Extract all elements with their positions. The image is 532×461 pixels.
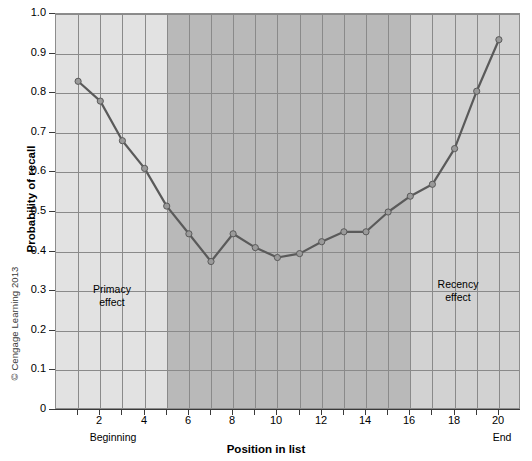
y-axis-tick-label: 0.2 (2, 323, 46, 335)
x-axis-tick (254, 409, 255, 415)
y-axis-tick-label: 0.7 (2, 125, 46, 137)
data-point (230, 231, 236, 237)
y-axis-tick (49, 171, 55, 172)
y-axis-tick (49, 251, 55, 252)
y-axis-tick-label: 0 (2, 402, 46, 414)
data-point (429, 181, 435, 187)
y-axis-tick-label: 0.6 (2, 164, 46, 176)
annotation-primacy-line1: Primacy (77, 283, 147, 296)
y-axis-tick-label: 0.5 (2, 204, 46, 216)
y-axis-tick-label: 0.8 (2, 85, 46, 97)
x-axis-tick (166, 409, 167, 415)
y-axis-tick (49, 330, 55, 331)
x-axis-tick-label: 18 (439, 414, 469, 426)
y-axis-tick-label: 0.1 (2, 362, 46, 374)
x-axis-tick (431, 409, 432, 415)
y-axis-tick (49, 369, 55, 370)
data-point (319, 239, 325, 245)
x-axis-tick-label: 20 (483, 414, 513, 426)
x-axis-line (55, 409, 520, 410)
x-axis-tick-label: 16 (394, 414, 424, 426)
serial-position-curve-figure: © Cengage Learning 2013 Probability of r… (0, 0, 532, 461)
data-point (474, 88, 480, 94)
x-axis-tick-label: 8 (217, 414, 247, 426)
data-point (142, 165, 148, 171)
annotation-primacy-effect: Primacy effect (77, 283, 147, 308)
x-axis-tick (387, 409, 388, 415)
x-axis-tick-label: 14 (350, 414, 380, 426)
y-axis-tick-label: 0.4 (2, 244, 46, 256)
x-axis-tick-label: 6 (173, 414, 203, 426)
annotation-primacy-line2: effect (77, 296, 147, 309)
y-axis-tick (49, 13, 55, 14)
y-axis-tick (49, 53, 55, 54)
y-axis-tick (49, 211, 55, 212)
data-point (75, 78, 81, 84)
y-axis-tick (49, 290, 55, 291)
data-point (385, 209, 391, 215)
x-axis-tick-label: 10 (261, 414, 291, 426)
x-axis-tick (476, 409, 477, 415)
x-axis-tick (77, 409, 78, 415)
x-axis-label-beginning: Beginning (68, 431, 158, 443)
data-point (119, 138, 125, 144)
x-axis-tick-label: 2 (84, 414, 114, 426)
data-point (363, 229, 369, 235)
y-axis-tick-label: 1.0 (2, 6, 46, 18)
y-axis-tick-label: 0.3 (2, 283, 46, 295)
data-point (97, 98, 103, 104)
x-axis-tick-label: 12 (306, 414, 336, 426)
data-point (186, 231, 192, 237)
data-point (208, 258, 214, 264)
data-point (496, 37, 502, 43)
y-axis-tick (49, 409, 55, 410)
data-point (452, 146, 458, 152)
x-axis-title: Position in list (0, 443, 532, 455)
data-point (407, 193, 413, 199)
x-axis-tick (121, 409, 122, 415)
x-axis-label-end: End (457, 431, 532, 443)
x-axis-tick (299, 409, 300, 415)
data-point (297, 251, 303, 257)
data-point (164, 203, 170, 209)
data-series-line (56, 14, 520, 409)
x-axis-tick-label: 4 (129, 414, 159, 426)
data-point (341, 229, 347, 235)
data-point (252, 245, 258, 251)
annotation-recency-line2: effect (423, 291, 493, 304)
y-axis-tick-label: 0.9 (2, 46, 46, 58)
plot-area: Primacy effect Recency effect (55, 13, 520, 409)
x-axis-tick (343, 409, 344, 415)
data-point (274, 254, 280, 260)
y-axis-tick (49, 92, 55, 93)
annotation-recency-effect: Recency effect (423, 278, 493, 303)
annotation-recency-line1: Recency (423, 278, 493, 291)
y-axis-tick (49, 132, 55, 133)
series-polyline (78, 40, 499, 262)
x-axis-tick (210, 409, 211, 415)
